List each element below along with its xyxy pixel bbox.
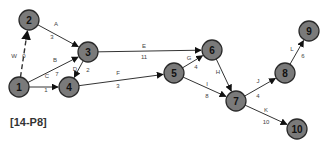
duration-label: 7 (55, 71, 59, 77)
edge-7-10: K10 (245, 105, 287, 125)
node-label: 8 (282, 68, 288, 79)
duration-label: 1 (44, 87, 48, 93)
node-1: 1 (9, 77, 29, 97)
node-5: 5 (164, 63, 184, 83)
activity-arrow (245, 78, 276, 96)
duration-label: 2 (86, 67, 90, 73)
edge-1-4: C1 (29, 73, 58, 93)
activity-arrow (98, 50, 201, 52)
edge-5-7: I8 (183, 77, 226, 99)
activity-label: J (257, 78, 260, 84)
edge-6-7: H (216, 59, 231, 91)
node-label: 2 (26, 15, 32, 26)
edge-2-3: A3 (38, 21, 79, 47)
duration-label: 0 (22, 53, 26, 59)
duration-label: 3 (116, 83, 120, 89)
edge-5-6: G4 (183, 55, 203, 70)
activity-label: K (264, 107, 268, 113)
node-label: 10 (291, 124, 303, 135)
node-label: 7 (233, 96, 239, 107)
node-label: 6 (209, 45, 215, 56)
node-label: 3 (85, 47, 91, 58)
duration-label: 8 (205, 93, 209, 99)
edge-7-8: J4 (245, 78, 276, 99)
activity-arrow (183, 56, 203, 68)
activity-label: B (53, 57, 57, 63)
activity-label: E (142, 43, 146, 49)
activity-label: D (73, 66, 78, 72)
node-label: 1 (16, 82, 22, 93)
edge-4-5: F3 (79, 70, 163, 89)
node-8: 8 (275, 63, 295, 83)
activity-label: A (54, 21, 58, 27)
activity-label: L (290, 46, 294, 52)
edge-1-2: W0 (11, 31, 27, 77)
activity-label: W (11, 53, 17, 59)
figure-caption: [14-P8] (10, 116, 47, 128)
duration-label: 6 (301, 53, 305, 59)
activity-arrow (79, 74, 163, 85)
activity-arrow (38, 25, 79, 47)
duration-label: 4 (256, 93, 260, 99)
edges-layer: W0A3B7C1D2E11F3G4HI8J4K10L6 (11, 21, 305, 125)
edge-3-6: E11 (98, 43, 201, 60)
node-3: 3 (78, 42, 98, 62)
node-6: 6 (202, 40, 222, 60)
network-diagram: W0A3B7C1D2E11F3G4HI8J4K10L6 12345678910 (0, 0, 328, 146)
node-label: 5 (171, 68, 177, 79)
duration-label: 3 (50, 34, 54, 40)
node-label: 9 (306, 26, 312, 37)
activity-arrow (216, 59, 231, 91)
activity-label: G (187, 55, 192, 61)
activity-label: I (206, 81, 208, 87)
node-7: 7 (226, 91, 246, 111)
duration-label: 4 (194, 64, 198, 70)
node-2: 2 (19, 10, 39, 30)
node-label: 4 (66, 82, 72, 93)
node-4: 4 (59, 77, 79, 97)
duration-label: 11 (141, 54, 148, 60)
edge-8-9: L6 (290, 41, 305, 65)
activity-label: F (116, 70, 120, 76)
node-9: 9 (299, 21, 319, 41)
activity-label: H (216, 69, 220, 75)
duration-label: 10 (263, 119, 270, 125)
node-10: 10 (287, 119, 307, 139)
edge-3-4: D2 (73, 61, 91, 78)
activity-label: C (45, 73, 50, 79)
